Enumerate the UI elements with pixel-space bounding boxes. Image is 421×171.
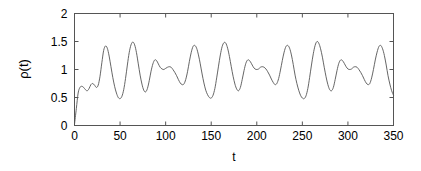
y-tick-label: 1.5 [51, 36, 68, 48]
y-tick-label: 1 [61, 64, 68, 76]
y-tick-label: 2 [61, 8, 68, 20]
y-tick-label: 0.5 [51, 92, 68, 104]
x-tick-label: 200 [247, 130, 267, 142]
chart-figure: 050100150200250300350 00.511.52 t ρ(t) [0, 0, 421, 171]
x-tick-label: 350 [383, 130, 403, 142]
x-axis-label: t [232, 150, 235, 164]
x-tick-label: 250 [292, 130, 312, 142]
x-tick-label: 100 [156, 130, 176, 142]
y-axis-label: ρ(t) [16, 59, 31, 79]
x-tick-label: 0 [71, 130, 78, 142]
y-tick-label: 0 [61, 120, 68, 132]
x-tick-label: 50 [113, 130, 126, 142]
x-tick-label: 300 [338, 130, 358, 142]
x-tick-label: 150 [201, 130, 221, 142]
line-chart-plot [0, 0, 421, 171]
plot-frame [75, 14, 394, 126]
